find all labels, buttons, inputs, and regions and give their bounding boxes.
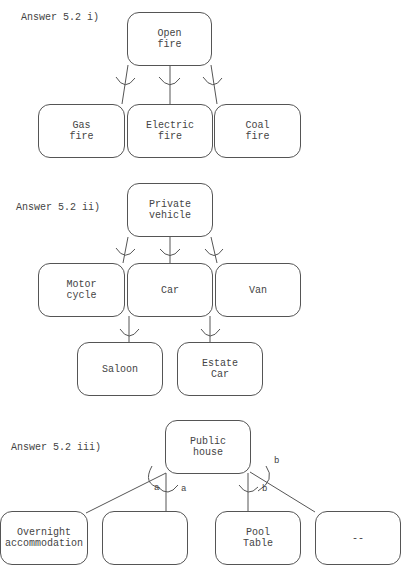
node-gas-fire: Gas fire [38,104,125,158]
node-overnight-accommodation: Overnight accommodation [0,511,88,565]
constraint-mark-a-2: a [181,484,186,494]
diagram-3-label: Answer 5.2 iii) [11,442,101,453]
node-car: Car [127,263,213,317]
constraint-mark-a-1: a [154,483,159,493]
node-saloon: Saloon [77,342,163,396]
constraint-mark-b-1: b [274,456,279,466]
constraint-mark-b-2: b [262,484,267,494]
node-public-house: Public house [165,420,251,474]
diagram-1-label: Answer 5.2 i) [21,12,99,23]
node-coal-fire: Coal fire [214,104,301,158]
node-empty [102,511,188,565]
node-electric-fire: Electric fire [127,104,213,158]
node-dash: -- [315,511,401,565]
node-open-fire: Open fire [127,12,212,66]
node-van: Van [215,263,301,317]
node-pool-table: Pool Table [215,511,301,565]
node-motor-cycle: Motor cycle [38,263,125,317]
node-estate-car: Estate Car [177,342,263,396]
node-private-vehicle: Private vehicle [127,183,213,237]
diagram-2-label: Answer 5.2 ii) [16,202,100,213]
